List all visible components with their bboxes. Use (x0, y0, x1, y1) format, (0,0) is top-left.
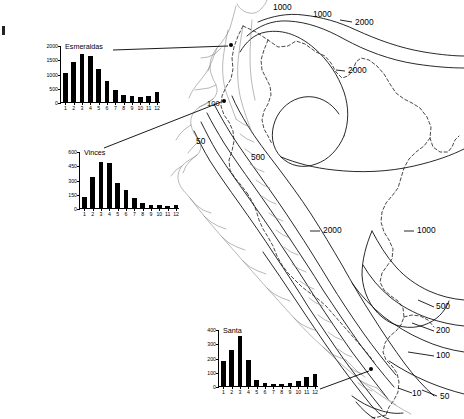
x-axis-tick-mark (282, 387, 283, 389)
bar (140, 203, 145, 209)
bar (113, 90, 118, 103)
y-axis-tick-mark (77, 166, 80, 167)
contour-label-500-south: 500 (436, 301, 450, 311)
x-axis-tick-mark (107, 103, 108, 105)
contour-label-100-south: 100 (436, 350, 450, 360)
bar (130, 96, 135, 103)
bar (88, 56, 93, 103)
bar (63, 73, 68, 103)
bar-group-esmeraldas (60, 46, 160, 103)
bar (238, 336, 243, 387)
x-axis-tick-mark (84, 209, 85, 211)
plot-area-esmeraldas: 0500100015002000 123456789101112 (60, 46, 160, 103)
bar (115, 183, 120, 209)
bar (124, 190, 129, 209)
contour-label-100-coast: 100 (207, 99, 220, 108)
bar (304, 377, 309, 387)
x-axis-tick-mark (65, 103, 66, 105)
y-axis-tick-mark (216, 387, 219, 388)
bar (221, 361, 226, 387)
y-axis-tick-label: 200 (197, 356, 216, 362)
x-axis-tick-mark (74, 103, 75, 105)
x-axis-tick-mark (149, 103, 150, 105)
chart-vinces: Vinces 0150300450600 123456789101112 (57, 148, 185, 223)
y-axis-tick-label: 2000 (39, 43, 58, 49)
y-axis-tick-label: 450 (58, 163, 77, 169)
x-axis-tick-label: 12 (152, 105, 162, 111)
y-axis-tick-mark (77, 152, 80, 153)
bar (80, 54, 85, 103)
contour-label-1000-north-b: 1000 (313, 9, 332, 19)
x-axis-tick-mark (298, 387, 299, 389)
y-axis-tick-label: 300 (197, 341, 216, 347)
x-axis-tick-mark (232, 387, 233, 389)
x-axis-tick-mark (223, 387, 224, 389)
x-axis-tick-mark (101, 209, 102, 211)
y-axis-tick-label: 1500 (39, 57, 58, 63)
x-axis-tick-mark (143, 209, 144, 211)
y-axis-tick-label: 300 (58, 178, 77, 184)
x-axis-tick-mark (151, 209, 152, 211)
y-axis-tick-label: 0 (39, 100, 58, 106)
y-axis-tick-mark (216, 359, 219, 360)
x-axis-tick-mark (93, 209, 94, 211)
contour-label-1000-north-a: 1000 (273, 2, 292, 12)
x-axis-tick-label: 12 (310, 389, 320, 395)
contour-label-10-south: 10 (412, 388, 421, 398)
contour-label-1000-east: 1000 (417, 225, 436, 235)
contour-label-500-andes: 500 (251, 152, 265, 162)
leader-line-santa (320, 371, 369, 389)
contour-label-2000-north-b: 2000 (348, 65, 367, 75)
y-axis-tick-mark (58, 89, 61, 90)
bar (121, 95, 126, 103)
y-axis-tick-mark (77, 195, 80, 196)
chart-santa: Santa 0100200300400 123456789101112 (196, 326, 324, 401)
plot-area-vinces: 0150300450600 123456789101112 (79, 152, 179, 209)
y-axis-tick-label: 150 (58, 192, 77, 198)
station-dot-esmeraldas (229, 43, 233, 47)
x-axis-tick-label: 12 (171, 211, 181, 217)
x-axis-tick-mark (168, 209, 169, 211)
y-axis-tick-label: 400 (197, 327, 216, 333)
bar (105, 81, 110, 103)
bar (313, 374, 318, 387)
x-axis-tick-mark (176, 209, 177, 211)
contour-label-2000-east: 2000 (323, 225, 342, 235)
bar (229, 350, 234, 387)
bar (254, 380, 259, 387)
x-axis-tick-mark (240, 387, 241, 389)
station-dot-santa (369, 367, 373, 371)
y-axis-tick-mark (77, 209, 80, 210)
bar (107, 163, 112, 209)
x-axis-tick-mark (315, 387, 316, 389)
bar (96, 69, 101, 103)
x-axis-tick-mark (307, 387, 308, 389)
bar (82, 197, 87, 209)
contour-label-50-south: 50 (440, 391, 449, 401)
y-axis-tick-mark (58, 46, 61, 47)
x-axis-tick-mark (132, 103, 133, 105)
x-axis-tick-mark (140, 103, 141, 105)
bar (90, 177, 95, 209)
bar (155, 92, 160, 103)
plot-area-santa: 0100200300400 123456789101112 (218, 330, 318, 387)
x-axis-tick-mark (126, 209, 127, 211)
x-axis-tick-mark (290, 387, 291, 389)
y-axis-tick-mark (58, 103, 61, 104)
x-axis-tick-mark (134, 209, 135, 211)
y-axis-tick-label: 100 (197, 370, 216, 376)
figure-canvas: 1000 1000 2000 2000 2000 1000 500 50 100… (0, 0, 464, 419)
bar (99, 162, 104, 209)
bar (146, 96, 151, 103)
x-axis-tick-mark (159, 209, 160, 211)
bar (132, 198, 137, 209)
y-axis-tick-label: 600 (58, 149, 77, 155)
x-axis-tick-mark (115, 103, 116, 105)
y-axis-tick-label: 500 (39, 86, 58, 92)
bar-group-santa (218, 330, 318, 387)
contour-label-50-coast: 50 (196, 136, 205, 146)
x-axis-tick-mark (273, 387, 274, 389)
x-axis-tick-mark (109, 209, 110, 211)
y-axis-tick-mark (216, 330, 219, 331)
chart-esmeraldas: Esmeraldas 0500100015002000 123456789101… (38, 42, 166, 117)
